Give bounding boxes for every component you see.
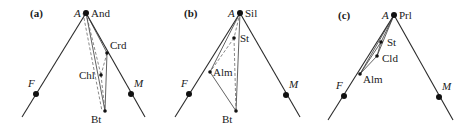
f-label: F <box>27 77 35 89</box>
phase-label-cld: Cld <box>382 52 398 64</box>
apex-label: A <box>73 7 81 19</box>
phase-point-alm-icon <box>358 72 362 76</box>
am-join-line <box>394 15 453 120</box>
f-point-icon <box>33 91 39 97</box>
phase-label-alm: Alm <box>213 66 233 78</box>
am-join-line <box>240 13 300 117</box>
phase-label-crd: Crd <box>110 39 127 51</box>
apex-point-icon <box>83 10 89 16</box>
m-point-icon <box>436 94 442 100</box>
panel-b: (b)ASilFMStAlmBt <box>175 7 300 125</box>
dashed-tie-line <box>83 13 102 111</box>
phase-label-bt: Bt <box>222 113 232 125</box>
afm-diagram-figure: (a)AAndFMCrdChlBt(b)ASilFMStAlmBt(c)APrl… <box>0 0 472 129</box>
af-join-line <box>22 13 86 117</box>
apex-label: A <box>381 9 389 21</box>
apex-point-icon <box>237 10 243 16</box>
phase-label-st: St <box>240 32 249 44</box>
panel-c: (c)APrlFMStCldAlm <box>328 9 453 120</box>
phase-point-crd-icon <box>105 51 109 55</box>
m-point-icon <box>128 91 134 97</box>
af-join-line <box>175 13 240 117</box>
phase-label-alm: Alm <box>363 73 383 85</box>
apex-point-icon <box>391 12 397 18</box>
apex-mineral-label: Sil <box>245 7 257 19</box>
tie-line-apex-alm <box>210 13 240 72</box>
m-label: M <box>288 78 299 90</box>
apex-label: A <box>227 7 235 19</box>
dashed-tie-line <box>234 38 236 111</box>
phase-point-cld-icon <box>375 54 379 58</box>
phase-point-bt-icon <box>234 109 238 113</box>
f-label: F <box>180 77 188 89</box>
phase-point-alm-icon <box>208 70 212 74</box>
phase-point-bt-icon <box>103 109 107 113</box>
phase-point-chl-icon <box>99 73 103 77</box>
f-point-icon <box>186 91 192 97</box>
apex-mineral-label: Prl <box>399 9 412 21</box>
m-point-icon <box>283 92 289 98</box>
panel-label: (c) <box>338 9 351 22</box>
panel-label: (b) <box>184 7 198 20</box>
am-join-line <box>86 13 145 117</box>
m-label: M <box>133 77 144 89</box>
tie-line-st-alm <box>360 42 381 74</box>
phase-label-bt: Bt <box>91 113 101 125</box>
panel-a: (a)AAndFMCrdChlBt <box>22 7 145 125</box>
afm-diagrams-svg: (a)AAndFMCrdChlBt(b)ASilFMStAlmBt(c)APrl… <box>0 0 472 129</box>
f-point-icon <box>341 93 347 99</box>
phase-label-st: St <box>387 36 396 48</box>
apex-mineral-label: And <box>91 7 110 19</box>
f-label: F <box>335 79 343 91</box>
m-label: M <box>441 80 452 92</box>
tie-line-apex-bt <box>86 13 105 111</box>
tie-line-crd-bt <box>105 53 107 111</box>
dashed-tie-line <box>86 13 101 75</box>
phase-point-st-icon <box>379 40 383 44</box>
panel-label: (a) <box>30 7 43 20</box>
tie-line-apex-crd <box>86 13 107 53</box>
phase-point-st-icon <box>232 36 236 40</box>
phase-label-chl: Chl <box>79 69 95 81</box>
af-join-line <box>328 15 394 120</box>
